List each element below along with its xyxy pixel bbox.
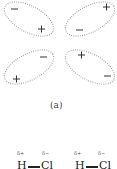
plus-sign (103, 4, 110, 11)
hydrogen-atom: H (17, 159, 27, 169)
ellipse-top-left (0, 0, 59, 43)
ellipse-bottom-right (60, 43, 117, 91)
delta-negative-label: δ− (42, 150, 49, 156)
chlorine-atom: Cl (41, 159, 53, 169)
covalent-bond (28, 166, 40, 168)
delta-negative-label: δ− (98, 150, 105, 156)
plus-sign (78, 52, 85, 59)
delta-positive-label: δ+ (17, 150, 24, 156)
covalent-bond (86, 166, 98, 168)
ellipse-top-right (60, 0, 117, 43)
hydrogen-atom: H (75, 159, 85, 169)
figure-caption: (a) (50, 100, 62, 110)
ellipse-bottom-left (0, 43, 59, 91)
chlorine-atom: Cl (99, 159, 111, 169)
dipole-ellipses-diagram (0, 0, 117, 95)
plus-sign (38, 26, 45, 33)
delta-positive-label: δ+ (74, 150, 81, 156)
plus-sign (13, 76, 20, 83)
